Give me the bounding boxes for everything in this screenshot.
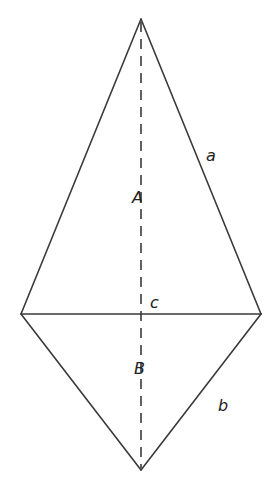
label-region-A: A	[131, 188, 143, 207]
edge-top-right-a	[141, 19, 261, 314]
label-side-b: b	[218, 396, 228, 415]
label-side-a: a	[206, 146, 216, 165]
kite-diagram: a A c B b	[0, 0, 272, 492]
edge-bottom-left	[21, 314, 141, 470]
edge-top-left	[21, 19, 141, 314]
label-base-c: c	[150, 293, 159, 312]
edge-bottom-right-b	[141, 314, 261, 470]
label-region-B: B	[134, 359, 145, 378]
